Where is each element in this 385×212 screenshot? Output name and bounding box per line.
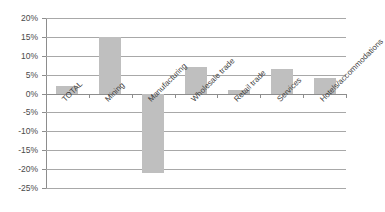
gridline	[46, 169, 346, 170]
bar	[142, 94, 164, 173]
y-axis-tick-label: 10%	[21, 52, 38, 61]
x-axis-tick	[260, 94, 261, 98]
x-axis-tick	[132, 94, 133, 98]
y-axis-tick-label: 0%	[26, 89, 38, 98]
x-axis-tick	[303, 94, 304, 98]
gridline	[46, 112, 346, 113]
x-axis-tick	[175, 94, 176, 98]
gridline	[46, 18, 346, 19]
y-axis-tick	[42, 37, 46, 38]
y-axis-tick-label: -15%	[18, 146, 38, 155]
y-axis-tick-label: -10%	[18, 127, 38, 136]
y-axis-tick-label: -5%	[23, 108, 38, 117]
y-axis-tick-label: 20%	[21, 14, 38, 23]
y-axis-tick	[42, 56, 46, 57]
y-axis-tick	[42, 18, 46, 19]
y-axis-tick	[42, 112, 46, 113]
gridline	[46, 37, 346, 38]
y-axis-tick-label: 15%	[21, 33, 38, 42]
x-axis-tick	[89, 94, 90, 98]
x-axis-tick	[346, 94, 347, 98]
y-axis-tick-label: 5%	[26, 70, 38, 79]
x-axis-tick	[46, 94, 47, 98]
y-axis-tick	[42, 169, 46, 170]
y-axis-tick	[42, 131, 46, 132]
y-axis-tick-label: -25%	[18, 184, 38, 193]
y-axis-tick	[42, 75, 46, 76]
gridline	[46, 188, 346, 189]
gridline	[46, 131, 346, 132]
x-axis-tick	[217, 94, 218, 98]
y-axis-tick	[42, 150, 46, 151]
gridline	[46, 150, 346, 151]
gridline	[46, 56, 346, 57]
y-axis-tick-label: -20%	[18, 165, 38, 174]
y-axis-tick	[42, 188, 46, 189]
